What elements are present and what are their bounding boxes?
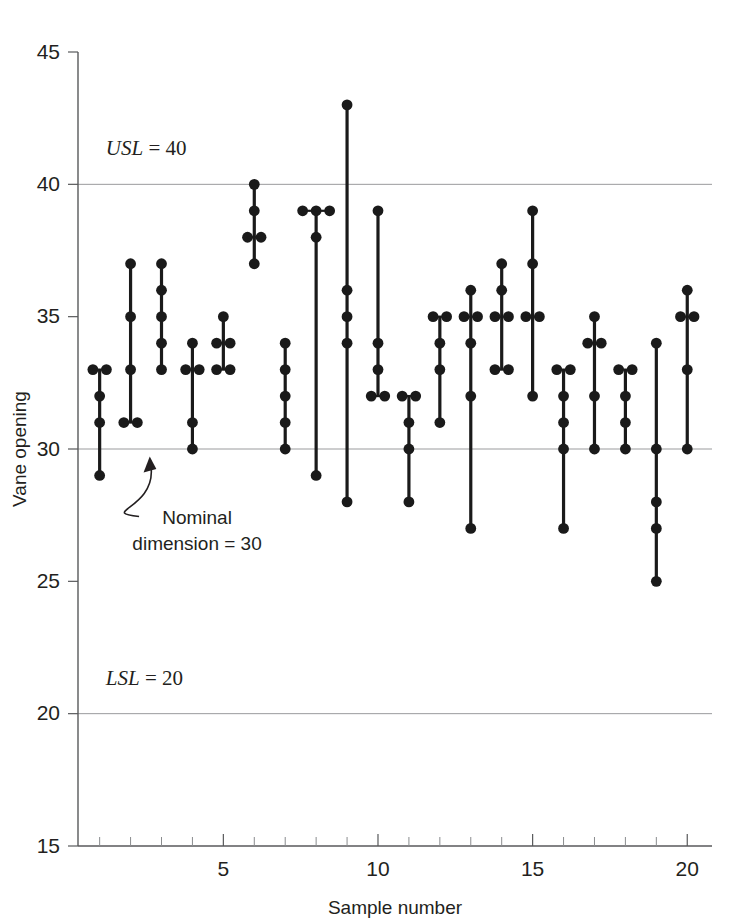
- data-point: [496, 258, 507, 269]
- data-point: [558, 417, 569, 428]
- data-point: [249, 205, 260, 216]
- y-tick-label-20: 20: [37, 701, 60, 724]
- data-point: [94, 470, 105, 481]
- data-point: [651, 338, 662, 349]
- data-point: [342, 338, 353, 349]
- data-point: [434, 338, 445, 349]
- data-point: [373, 364, 384, 375]
- y-tick-label-30: 30: [37, 437, 60, 460]
- data-point: [280, 444, 291, 455]
- data-point: [589, 391, 600, 402]
- data-point: [280, 364, 291, 375]
- y-tick-label-45: 45: [37, 40, 60, 63]
- x-tick-label-15: 15: [521, 857, 544, 880]
- data-point: [156, 285, 167, 296]
- data-point: [125, 311, 136, 322]
- data-point: [620, 417, 631, 428]
- data-point: [373, 338, 384, 349]
- data-point: [280, 417, 291, 428]
- data-point: [465, 285, 476, 296]
- data-point: [527, 391, 538, 402]
- data-point: [404, 497, 415, 508]
- vane-opening-tolerance-diagram: 15202530354045 5101520 USL = 40LSL = 20 …: [0, 0, 734, 922]
- data-point: [682, 285, 693, 296]
- data-point: [125, 364, 136, 375]
- data-point: [187, 338, 198, 349]
- spec-label-lsl: LSL = 20: [105, 666, 183, 690]
- y-axis-title: Vane opening: [9, 391, 30, 507]
- data-point: [682, 364, 693, 375]
- spec-label-usl: USL = 40: [106, 136, 187, 160]
- data-point: [620, 391, 631, 402]
- data-point: [651, 444, 662, 455]
- data-point: [280, 338, 291, 349]
- chart-canvas: 15202530354045 5101520 USL = 40LSL = 20 …: [0, 0, 734, 922]
- data-point: [404, 417, 415, 428]
- data-point: [342, 285, 353, 296]
- x-tick-label-10: 10: [366, 857, 389, 880]
- data-point: [311, 232, 322, 243]
- data-point: [342, 100, 353, 111]
- x-tick-label-5: 5: [218, 857, 230, 880]
- data-point: [496, 285, 507, 296]
- y-tick-label-15: 15: [37, 834, 60, 857]
- data-point: [342, 497, 353, 508]
- data-point: [249, 258, 260, 269]
- data-point: [589, 311, 600, 322]
- data-point: [558, 523, 569, 534]
- data-point: [651, 497, 662, 508]
- data-point: [589, 444, 600, 455]
- y-tick-label-35: 35: [37, 304, 60, 327]
- data-point: [156, 338, 167, 349]
- callout-text-line-2: dimension = 30: [132, 533, 261, 554]
- data-point: [125, 258, 136, 269]
- data-point: [404, 444, 415, 455]
- data-point: [156, 311, 167, 322]
- data-point: [527, 205, 538, 216]
- data-point: [651, 576, 662, 587]
- data-point: [218, 311, 229, 322]
- callout-text-line-1: Nominal: [162, 507, 232, 528]
- data-point: [342, 311, 353, 322]
- data-point: [682, 444, 693, 455]
- data-point: [558, 391, 569, 402]
- data-point: [187, 417, 198, 428]
- y-tick-label-40: 40: [37, 172, 60, 195]
- data-point: [465, 523, 476, 534]
- data-point: [434, 417, 445, 428]
- x-axis-title: Sample number: [328, 897, 463, 918]
- data-point: [558, 444, 569, 455]
- data-point: [620, 444, 631, 455]
- x-tick-label-20: 20: [676, 857, 699, 880]
- data-point: [156, 364, 167, 375]
- data-point: [94, 417, 105, 428]
- data-point: [249, 179, 260, 190]
- data-point: [311, 470, 322, 481]
- data-point: [156, 258, 167, 269]
- data-point: [465, 338, 476, 349]
- data-point: [373, 205, 384, 216]
- data-point: [187, 444, 198, 455]
- data-point: [434, 364, 445, 375]
- y-tick-label-25: 25: [37, 569, 60, 592]
- data-point: [527, 258, 538, 269]
- data-point: [651, 523, 662, 534]
- data-point: [280, 391, 291, 402]
- data-point: [465, 391, 476, 402]
- data-point: [94, 391, 105, 402]
